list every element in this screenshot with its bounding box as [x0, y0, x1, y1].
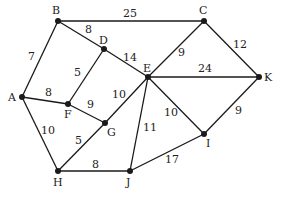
edge-weight-label: 14: [123, 51, 137, 64]
node-label: E: [143, 62, 151, 75]
node-label: F: [64, 108, 72, 121]
edge-weight-label: 11: [143, 121, 157, 134]
graph-diagram: 725814589109122411109105817ABCDEFGHIJK: [0, 0, 281, 198]
edge-c-k: [204, 21, 259, 77]
node-h: [55, 168, 61, 174]
edge-weight-label: 8: [85, 23, 92, 36]
node-label: A: [7, 91, 17, 104]
edge-weight-label: 9: [87, 98, 94, 111]
node-f: [65, 101, 71, 107]
node-label: B: [52, 4, 60, 17]
edge-b-d: [58, 21, 104, 49]
edge-weight-label: 10: [41, 124, 55, 137]
edge-k-i: [204, 77, 259, 134]
node-a: [19, 94, 25, 100]
node-label: D: [99, 34, 108, 47]
node-label: I: [206, 137, 210, 150]
node-label: K: [264, 71, 273, 84]
edge-weight-label: 24: [198, 62, 212, 75]
node-label: G: [107, 126, 116, 139]
edge-weight-label: 7: [28, 50, 35, 63]
edge-weight-label: 8: [92, 158, 99, 171]
edge-weight-label: 5: [75, 134, 82, 147]
node-j: [127, 168, 133, 174]
node-c: [201, 18, 207, 24]
node-label: C: [199, 4, 207, 17]
edge-weight-label: 8: [45, 86, 52, 99]
edges-layer: [22, 21, 259, 171]
edge-weight-label: 10: [164, 106, 178, 119]
edge-weight-label: 25: [123, 7, 137, 20]
edge-weight-label: 17: [165, 153, 179, 166]
edge-weight-label: 12: [233, 38, 247, 51]
node-label: H: [53, 176, 63, 189]
edge-weight-label: 10: [112, 88, 126, 101]
labels-layer: 725814589109122411109105817ABCDEFGHIJK: [7, 4, 273, 189]
node-b: [55, 18, 61, 24]
edge-c-e: [148, 21, 204, 77]
nodes-layer: [19, 18, 262, 174]
edge-weight-label: 5: [74, 66, 81, 79]
edge-weight-label: 9: [235, 104, 242, 117]
node-k: [256, 74, 262, 80]
node-label: J: [125, 176, 130, 189]
edge-weight-label: 9: [178, 46, 185, 59]
